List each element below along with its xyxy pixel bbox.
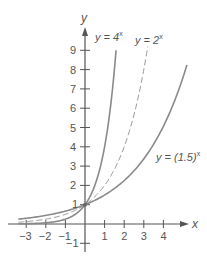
- y-axis-label: y: [80, 11, 88, 25]
- x-axis-label: x: [191, 217, 199, 231]
- intersection-point: [83, 203, 87, 207]
- y-axis-arrow-icon: [82, 27, 88, 36]
- x-tick-label: 3: [141, 230, 147, 242]
- y-tick-label: 3: [70, 160, 76, 172]
- y-tick-label: 8: [70, 64, 76, 76]
- label-4x-sup: x: [119, 30, 123, 37]
- curve-2: [18, 47, 147, 223]
- label-2x-text: y = 2: [134, 34, 159, 46]
- label-2x: y = 2x: [134, 33, 163, 46]
- x-tick-label: 4: [160, 230, 166, 242]
- y-tick-label: 6: [70, 102, 76, 114]
- y-tick-label: −1: [66, 237, 79, 249]
- x-tick-label: −3: [19, 230, 32, 242]
- axes: [8, 27, 189, 252]
- curves: [18, 47, 187, 224]
- label-2x-sup: x: [159, 33, 163, 40]
- exponential-functions-chart: −3−2−11234−123456789 y x y = 4x y = 2x y…: [0, 0, 207, 256]
- label-1-5x-text: y = (1.5): [155, 151, 197, 163]
- ticks: −3−2−11234−123456789: [19, 44, 166, 249]
- label-1-5x-sup: x: [197, 150, 201, 157]
- x-tick-label: −2: [39, 230, 52, 242]
- y-tick-label: 4: [70, 141, 76, 153]
- intercept-label: 1: [72, 198, 78, 210]
- label-4x-text: y = 4: [94, 31, 119, 43]
- y-tick-label: 2: [70, 179, 76, 191]
- curve-1-5: [18, 65, 187, 219]
- y-tick-label: 7: [70, 83, 76, 95]
- y-tick-label: 9: [70, 44, 76, 56]
- y-tick-label: 5: [70, 122, 76, 134]
- label-4x: y = 4x: [94, 30, 123, 43]
- x-tick-label: 1: [102, 230, 108, 242]
- x-tick-label: 2: [121, 230, 127, 242]
- label-1-5x: y = (1.5)x: [155, 150, 201, 163]
- x-axis-arrow-icon: [180, 221, 189, 227]
